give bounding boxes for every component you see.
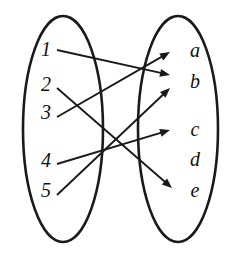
domain-element-2: 2 — [41, 73, 51, 95]
codomain-element-a: a — [190, 39, 200, 61]
mapping-canvas: 12345 abcde — [0, 0, 235, 258]
domain-element-5: 5 — [41, 179, 51, 201]
domain-element-4: 4 — [41, 149, 51, 171]
codomain-element-c: c — [191, 118, 200, 140]
domain-element-1: 1 — [41, 38, 51, 60]
function-mapping-diagram: 12345 abcde — [0, 0, 235, 258]
codomain-element-d: d — [190, 148, 201, 170]
codomain-set-ellipse — [138, 16, 218, 242]
codomain-element-b: b — [190, 70, 200, 92]
codomain-element-e: e — [191, 179, 200, 201]
domain-element-3: 3 — [40, 101, 51, 123]
domain-set-ellipse — [23, 16, 103, 242]
